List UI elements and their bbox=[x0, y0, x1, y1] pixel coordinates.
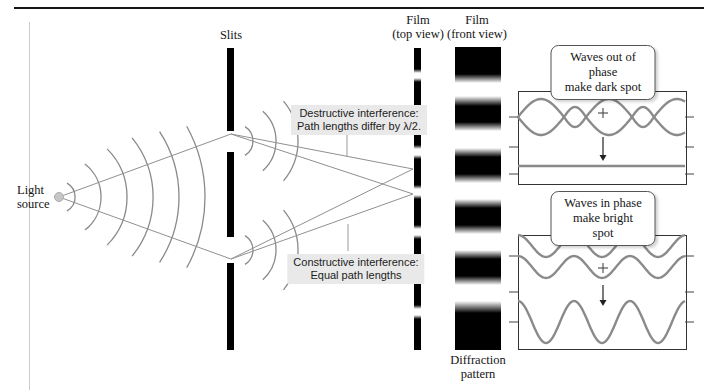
film-front-view-strip bbox=[455, 47, 501, 350]
slit-barrier-middle-segment bbox=[227, 152, 234, 237]
wavefront-arc bbox=[85, 164, 101, 230]
wavefront-arc bbox=[107, 149, 127, 245]
film-top-view-strip bbox=[414, 48, 421, 350]
double-slit-interference-figure: Light source Slits Film (top view) Film … bbox=[0, 0, 708, 390]
light-path-line bbox=[59, 134, 231, 197]
wavefront-arc bbox=[67, 183, 75, 211]
wavefront-arc bbox=[160, 132, 179, 263]
in-phase-panel bbox=[518, 235, 687, 350]
wavefront-arc bbox=[263, 220, 276, 279]
slit-barrier-top-segment bbox=[227, 48, 234, 131]
slit-barrier-bottom-segment bbox=[227, 263, 234, 350]
constructive-interference-label: Constructive interference: Equal path le… bbox=[287, 254, 424, 284]
wavefront-arc bbox=[245, 127, 253, 156]
wavefront-arc bbox=[187, 126, 205, 268]
top-rule-divider bbox=[14, 7, 704, 9]
wavefront-arc bbox=[132, 138, 153, 256]
light-path-line bbox=[231, 169, 413, 259]
light-source-label: Light source bbox=[17, 184, 50, 211]
out-of-phase-panel bbox=[518, 91, 687, 185]
waves-in-phase-callout: Waves in phase make bright spot bbox=[551, 191, 656, 246]
waves-out-of-phase-callout: Waves out of phase make dark spot bbox=[551, 45, 656, 100]
light-path-line bbox=[59, 197, 231, 259]
light-path-line bbox=[231, 194, 413, 259]
slits-label: Slits bbox=[209, 29, 253, 43]
diffraction-pattern-label: Diffraction pattern bbox=[438, 354, 518, 381]
film-front-view-label: Film (front view) bbox=[432, 14, 522, 41]
destructive-interference-label: Destructive interference: Path lengths d… bbox=[291, 105, 427, 135]
light-source-dot bbox=[55, 193, 64, 202]
light-path-line bbox=[231, 134, 413, 169]
light-path-line bbox=[231, 134, 413, 194]
wavefront-arc bbox=[263, 111, 276, 170]
wavefront-arc bbox=[245, 236, 253, 265]
